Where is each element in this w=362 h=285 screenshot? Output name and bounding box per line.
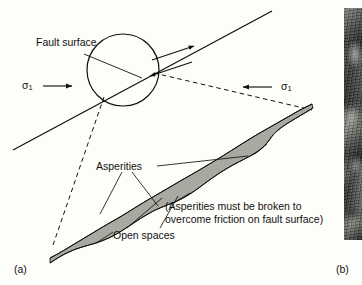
figure-container: Fault surface σ1 σ1 Asperities Open spac… <box>0 0 362 285</box>
stress-label-left: σ1 <box>22 79 33 95</box>
fault-surface-leader-line <box>84 54 142 78</box>
stress-label-right: σ1 <box>281 80 292 96</box>
panel-letter-b: (b) <box>336 263 349 275</box>
asperity-note-line-1: (Asperities must be broken to <box>165 200 302 213</box>
asperity-band <box>50 104 313 263</box>
photo-highlight-texture <box>344 8 362 240</box>
outcrop-photograph <box>344 8 362 240</box>
fault-surface-label: Fault surface <box>36 36 97 49</box>
stress-label-left-subscript: 1 <box>28 83 32 92</box>
shear-arrow-upper <box>152 46 194 60</box>
asperities-leader-line-left <box>100 172 122 214</box>
fault-trace-line <box>13 11 272 150</box>
asperities-leader-line-mid <box>132 172 158 206</box>
enlargement-tie-line-lower <box>52 97 104 248</box>
stress-label-right-subscript: 1 <box>287 84 291 93</box>
asperity-open-space-fill <box>50 104 313 263</box>
asperities-label: Asperities <box>96 160 142 173</box>
open-spaces-label: Open spaces <box>113 229 175 242</box>
asperity-note-line-2: overcome friction on fault surface) <box>165 213 323 226</box>
panel-letter-a: (a) <box>14 263 27 275</box>
